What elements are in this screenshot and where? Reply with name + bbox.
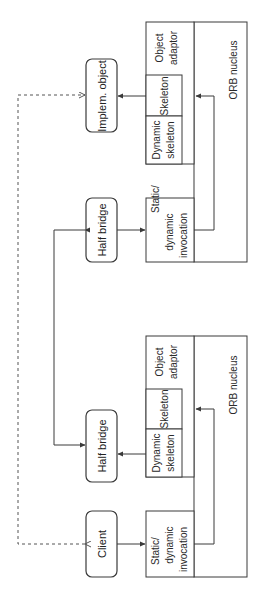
server-object-adaptor-label-1: Object	[154, 33, 165, 62]
client-object-adaptor-label-1: Object	[154, 347, 165, 376]
client-object-adaptor-label-2: adaptor	[168, 344, 179, 379]
server-orb-nucleus	[194, 22, 247, 262]
server-object-adaptor-label-2: adaptor	[168, 30, 179, 65]
server-invocation-label-3: invocation	[178, 213, 189, 258]
server-dynamic-skeleton-label-2: skeleton	[165, 121, 176, 158]
half-bridge-upper-label: Half bridge	[96, 203, 108, 256]
server-invocation-label-2: dynamic	[164, 213, 175, 250]
half-bridge-lower-label: Half bridge	[96, 419, 108, 472]
logical-dashed-link	[18, 95, 85, 544]
server-skeleton-label: Skeleton	[159, 77, 170, 116]
client-dynamic-skeleton-label-2: skeleton	[165, 434, 176, 471]
client-label: Client	[96, 530, 108, 558]
client-invocation-label-1: Static/	[150, 537, 161, 565]
implem-object-label: Implem. object	[96, 60, 108, 132]
server-orb-nucleus-label: ORB nucleus	[228, 41, 239, 100]
client-orb-nucleus-label: ORB nucleus	[228, 356, 239, 415]
server-dynamic-skeleton-label-1: Dynamic	[151, 121, 162, 160]
client-skeleton-label: Skeleton	[159, 390, 170, 429]
orb-bridge-diagram: Implem. object Half bridge Half bridge C…	[0, 0, 263, 607]
bridge-connector-arrow	[54, 230, 85, 445]
server-invocation-label-1: Static/	[150, 185, 161, 213]
client-orb-nucleus	[194, 336, 247, 577]
client-invocation-label-3: invocation	[178, 527, 189, 572]
client-dynamic-skeleton-label-1: Dynamic	[151, 434, 162, 473]
client-invocation-label-2: dynamic	[164, 526, 175, 563]
